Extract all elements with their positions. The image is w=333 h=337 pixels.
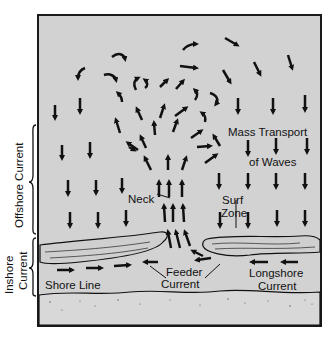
- shore-line-label: Shore Line: [45, 279, 101, 292]
- feeder-current-label-line2: Current: [161, 278, 199, 291]
- inshore-current-label-line1: Inshore: [3, 256, 16, 294]
- longshore-current-label-line1: Longshore: [249, 267, 303, 280]
- surf-zone-label-line2: Zone: [221, 207, 247, 220]
- mass-transport-label-line2: of Waves: [249, 156, 297, 169]
- neck-label: Neck: [128, 193, 154, 206]
- sandbar-right: [203, 236, 320, 256]
- inshore-current-label-line2: Current: [17, 252, 30, 290]
- offshore-current-label: Offshore Current: [13, 143, 26, 228]
- longshore-current-label-line2: Current: [258, 280, 296, 293]
- beach: [39, 290, 320, 325]
- region-braces: [29, 125, 36, 296]
- surf-zone-label-line1: Surf: [222, 194, 243, 207]
- mass-transport-label-line1: Mass Transport: [228, 126, 307, 139]
